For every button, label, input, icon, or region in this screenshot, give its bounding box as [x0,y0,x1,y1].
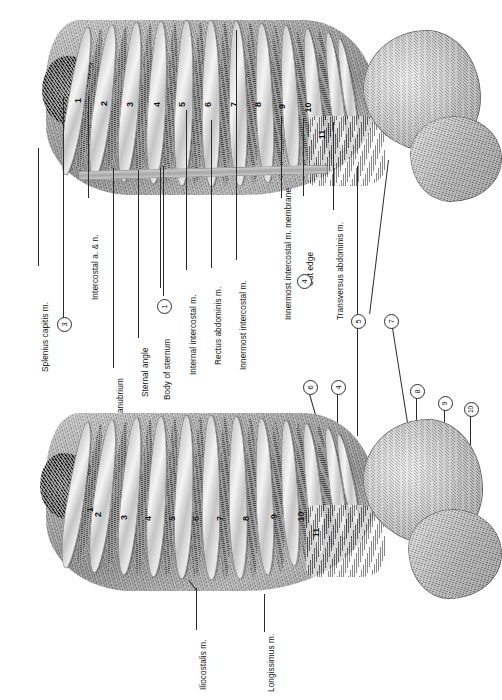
upper-rib-number-1: 1 [74,98,83,103]
label-intercostal-a-n: Intercostal a. & n. [92,234,100,300]
leader-line-splenius-capitis [38,148,39,266]
upper-brachial-muscle-mass [410,116,502,202]
leader-line-rectus-abdominis [211,120,212,268]
lower-rib-number-5: 5 [168,516,177,521]
label-splenius-capitis: Splenius capitis m. [42,302,50,372]
upper-rib-number-3: 3 [126,102,135,107]
upper-rib-number-5: 5 [178,102,187,107]
lower-rib-number-6: 6 [192,516,201,521]
leader-line-manubrium [113,168,114,368]
lower-rib-number-4: 4 [144,516,153,521]
leader-line-sternal-angle [138,170,139,338]
lower-rib-number-9: 9 [270,514,279,519]
label-longissimus: Longissimus m. [268,634,276,692]
lower-rib-number-3: 3 [120,515,129,520]
upper-abdominal-fiber-fan [308,116,386,186]
circled-number-4-cut-edge: 4 [297,274,312,289]
lower-rib-number-8: 8 [242,516,251,521]
label-internal-intercostal: Internal intercostal m. [190,294,198,375]
label-iliocostalis: Iliocostalis m. [200,639,208,690]
lower-rib-number-7: 7 [216,516,225,521]
upper-rib-number-11: 11 [318,130,327,140]
leader-line-iliocostalis [196,588,197,630]
label-rectus-abdominis: Rectus abdominis m. [215,287,223,365]
upper-rib-number-7: 7 [230,102,239,107]
upper-rib-number-4: 4 [153,102,162,107]
leader-line-circled-3 [63,96,64,318]
circled-number-4-lower: 4 [331,380,346,395]
upper-rib-number-6: 6 [204,102,213,107]
leader-line-cut-edge [303,118,304,196]
upper-anatomical-illustration [18,8,502,208]
lower-rib-number-11: 11 [312,528,321,538]
circled-number-8: 8 [410,384,425,399]
label-innermost-intercostal-membrane: Innermost intercostal m. membrane [285,188,293,320]
leader-line-circled-1 [163,166,164,296]
leader-line-innermost-intercostal-membrane [281,116,282,198]
leader-line-innermost-intercostal [236,30,237,260]
label-innermost-intercostal: Innermost intercostal m. [240,280,248,370]
lower-rib-number-10: 10 [297,511,306,521]
upper-rib-number-2: 2 [100,101,109,106]
circled-number-7: 7 [384,314,399,329]
leader-line-intercostal-a-n [88,96,89,198]
circled-number-3: 3 [57,317,72,332]
leader-line-internal-intercostal [186,110,187,270]
upper-rib-number-9: 9 [278,104,287,109]
circled-number-1: 1 [157,299,172,314]
leader-line-transversus-abdominis [333,122,334,210]
label-body-of-sternum: Body of sternum [164,339,172,400]
lower-abdominal-fiber-fan [306,505,386,577]
upper-rib-number-8: 8 [254,102,263,107]
lower-brachial-muscle-mass [408,509,502,599]
leader-line-body-of-sternum [160,168,161,288]
figure-canvas: 1 2 3 4 5 6 7 8 9 10 11 Splenius capitis… [0,0,502,700]
lower-rib-number-2: 2 [94,512,103,517]
label-transversus-abdominis: Transversus abdominis m. [337,222,345,320]
leader-line-longissimus [264,594,265,632]
leader-line-circled-5 [357,166,358,314]
circled-number-5: 5 [351,314,366,329]
circled-number-6: 6 [303,380,318,395]
label-sternal-angle: Sternal angle [142,347,150,397]
upper-rib-number-10: 10 [304,102,313,112]
